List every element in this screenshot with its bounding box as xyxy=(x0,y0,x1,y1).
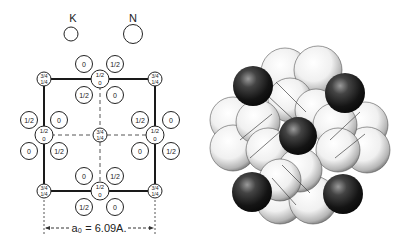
space-filling-model xyxy=(210,46,390,224)
svg-text:3/4: 3/4 xyxy=(97,129,104,135)
k-ion-corner-tl: 3/4 1/4 xyxy=(37,72,51,86)
legend-k-label: K xyxy=(69,12,77,24)
legend-n-label: N xyxy=(129,12,137,24)
svg-text:3/4: 3/4 xyxy=(152,73,159,79)
svg-text:1/2: 1/2 xyxy=(96,184,105,190)
n-atom-icon xyxy=(124,25,143,44)
k-sphere-center xyxy=(279,117,317,155)
k-ion-corner-br: 3/4 1/4 xyxy=(148,184,162,198)
k-sphere-bottom-left xyxy=(232,172,272,212)
svg-text:0: 0 xyxy=(113,204,117,211)
svg-text:1/4: 1/4 xyxy=(152,191,159,197)
svg-text:1/4: 1/4 xyxy=(152,79,159,85)
svg-text:1/2: 1/2 xyxy=(96,72,105,78)
svg-text:1/2: 1/2 xyxy=(40,128,49,134)
k-sphere-bottom-right xyxy=(323,174,363,214)
crystal-structure-figure: K N 0 1/2 1/2 0 1/2 0 0 1/2 1 xyxy=(0,0,398,243)
svg-text:1/2: 1/2 xyxy=(110,173,120,180)
k-ion-center: 3/4 1/4 xyxy=(93,128,107,142)
svg-text:3/4: 3/4 xyxy=(152,185,159,191)
svg-text:0: 0 xyxy=(82,61,86,68)
svg-text:1/2: 1/2 xyxy=(79,92,89,99)
svg-text:1/2: 1/2 xyxy=(151,128,160,134)
svg-text:1/4: 1/4 xyxy=(97,135,104,141)
svg-text:1/2: 1/2 xyxy=(79,204,89,211)
unit-cell: 0 1/2 1/2 0 1/2 0 0 1/2 1/2 0 1/2 0 xyxy=(21,56,180,216)
svg-text:1/2: 1/2 xyxy=(135,117,145,124)
k-ion-corner-bl: 3/4 1/4 xyxy=(37,184,51,198)
lattice-constant-label: a₀ = 6.09A. xyxy=(71,222,126,234)
svg-text:0: 0 xyxy=(57,117,61,124)
svg-text:3/4: 3/4 xyxy=(41,185,48,191)
svg-text:0: 0 xyxy=(169,117,173,124)
legend: K N xyxy=(64,12,143,44)
svg-text:1/4: 1/4 xyxy=(41,191,48,197)
svg-text:1/2: 1/2 xyxy=(166,148,176,155)
svg-text:3/4: 3/4 xyxy=(41,73,48,79)
svg-text:0: 0 xyxy=(27,148,31,155)
svg-text:0: 0 xyxy=(82,173,86,180)
svg-text:1/4: 1/4 xyxy=(41,79,48,85)
svg-text:0: 0 xyxy=(113,92,117,99)
k-sphere-top-right xyxy=(325,73,365,113)
svg-text:0: 0 xyxy=(138,148,142,155)
k-ion-corner-tr: 3/4 1/4 xyxy=(148,72,162,86)
svg-text:1/2: 1/2 xyxy=(24,117,34,124)
svg-text:1/2: 1/2 xyxy=(54,148,64,155)
svg-text:1/2: 1/2 xyxy=(110,61,120,68)
dimension-line: a₀ = 6.09A. xyxy=(44,200,155,234)
k-ion-icon xyxy=(64,27,78,41)
k-sphere-top-left xyxy=(233,66,273,106)
